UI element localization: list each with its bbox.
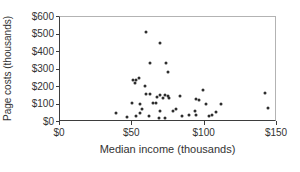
data-point	[145, 30, 148, 33]
data-point	[143, 85, 146, 88]
data-point	[163, 116, 166, 119]
y-tick-mark	[56, 104, 59, 105]
data-point	[159, 42, 162, 45]
data-point	[195, 114, 198, 117]
data-point	[134, 114, 137, 117]
y-tick-mark	[56, 16, 59, 17]
data-point	[215, 111, 218, 114]
data-point	[166, 71, 169, 74]
y-tick-label: $300	[0, 63, 54, 74]
x-tick-label: $50	[109, 127, 153, 138]
data-point	[263, 91, 266, 94]
data-point	[210, 114, 213, 117]
x-tick-mark	[204, 121, 205, 125]
x-axis-title: Median income (thousands)	[59, 143, 276, 156]
data-point	[114, 111, 117, 114]
data-point	[188, 113, 191, 116]
data-point	[155, 102, 158, 105]
data-point	[198, 98, 201, 101]
data-point	[175, 107, 178, 110]
data-point	[266, 107, 269, 110]
data-point	[193, 110, 196, 113]
data-point	[147, 115, 150, 118]
x-tick-label: $0	[37, 127, 81, 138]
scatter-chart: Page costs (thousands) Median income (th…	[0, 0, 300, 172]
data-point	[167, 97, 170, 100]
data-point	[162, 96, 165, 99]
y-tick-label: $600	[0, 11, 54, 22]
data-point	[157, 117, 160, 120]
data-point	[130, 102, 133, 105]
y-tick-mark	[56, 86, 59, 87]
x-tick-mark	[276, 121, 277, 125]
x-tick-label: $150	[254, 127, 298, 138]
data-point	[149, 62, 152, 65]
data-point	[137, 77, 140, 80]
data-point	[149, 92, 152, 95]
y-tick-label: $100	[0, 98, 54, 109]
data-point	[202, 89, 205, 92]
y-tick-mark	[56, 51, 59, 52]
y-tick-mark	[56, 34, 59, 35]
data-point	[140, 107, 143, 110]
y-tick-label: $200	[0, 81, 54, 92]
data-point	[205, 102, 208, 105]
data-point	[126, 115, 129, 118]
data-point	[156, 95, 159, 98]
data-point	[159, 110, 162, 113]
data-point	[180, 115, 183, 118]
y-tick-label: $500	[0, 28, 54, 39]
x-tick-mark	[131, 121, 132, 125]
data-point	[179, 95, 182, 98]
x-tick-mark	[59, 121, 60, 125]
y-tick-label: $0	[0, 116, 54, 127]
y-tick-mark	[56, 69, 59, 70]
data-point	[145, 93, 148, 96]
data-point	[133, 81, 136, 84]
data-point	[139, 103, 142, 106]
data-point	[165, 62, 168, 65]
y-tick-label: $400	[0, 46, 54, 57]
plot-area	[59, 16, 276, 121]
data-point	[219, 103, 222, 106]
data-point	[139, 112, 142, 115]
x-tick-label: $100	[182, 127, 226, 138]
